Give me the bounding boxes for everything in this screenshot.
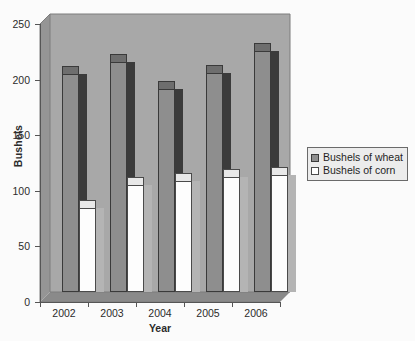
bar-face xyxy=(158,89,175,292)
legend-item-corn: Bushels of corn xyxy=(311,164,403,177)
bar-corn-2002 xyxy=(79,200,96,292)
y-tick-mark xyxy=(35,24,40,25)
x-tick-label-2002: 2002 xyxy=(41,307,87,319)
x-tick-label-2004: 2004 xyxy=(137,307,183,319)
y-tick-label: 200 xyxy=(0,74,30,86)
bar-corn-2006 xyxy=(271,167,288,292)
x-axis-title: Year xyxy=(0,322,320,334)
y-tick-mark xyxy=(35,80,40,81)
bar-face xyxy=(223,177,240,292)
x-tick-label-2003: 2003 xyxy=(89,307,135,319)
bar-face xyxy=(127,185,144,292)
y-tick-mark xyxy=(35,246,40,247)
bar-face xyxy=(175,181,192,292)
bar-wheat-2006 xyxy=(254,43,271,292)
bar-corn-2005 xyxy=(223,169,240,292)
bar-wheat-2004 xyxy=(158,81,175,292)
bar-face xyxy=(271,175,288,292)
y-tick-label: 100 xyxy=(0,185,30,197)
bar-chart: Bushels 0 50 100 150 200 250 xyxy=(0,0,415,341)
bar-side xyxy=(144,185,152,292)
bar-corn-2003 xyxy=(127,177,144,292)
x-tick-mark xyxy=(280,302,281,307)
bar-side xyxy=(96,208,104,292)
bar-side xyxy=(192,181,200,292)
y-tick-label: 0 xyxy=(0,296,30,308)
bar-face xyxy=(79,208,96,292)
bar-face xyxy=(254,51,271,292)
legend-swatch-wheat-icon xyxy=(311,154,319,162)
x-tick-label-2005: 2005 xyxy=(185,307,231,319)
y-axis-line xyxy=(40,24,41,302)
bar-face xyxy=(206,73,223,292)
y-tick-mark xyxy=(35,135,40,136)
legend-label-wheat: Bushels of wheat xyxy=(323,151,403,164)
bar-wheat-2003 xyxy=(110,54,127,292)
legend-item-wheat: Bushels of wheat xyxy=(311,151,403,164)
bar-wheat-2002 xyxy=(62,66,79,292)
y-tick-label: 50 xyxy=(0,240,30,252)
y-tick-label: 150 xyxy=(0,129,30,141)
y-axis-title: Bushels xyxy=(12,106,24,186)
bar-side xyxy=(240,177,248,292)
x-axis-line xyxy=(40,302,281,303)
legend-swatch-corn-icon xyxy=(311,167,319,175)
y-tick-mark xyxy=(35,191,40,192)
bar-side xyxy=(288,175,296,292)
chart-legend: Bushels of wheat Bushels of corn xyxy=(307,147,408,181)
legend-label-corn: Bushels of corn xyxy=(323,164,395,177)
bar-face xyxy=(110,62,127,292)
bar-wheat-2005 xyxy=(206,65,223,292)
x-tick-label-2006: 2006 xyxy=(233,307,279,319)
bar-face xyxy=(62,74,79,292)
bar-corn-2004 xyxy=(175,173,192,292)
y-tick-label: 250 xyxy=(0,18,30,30)
